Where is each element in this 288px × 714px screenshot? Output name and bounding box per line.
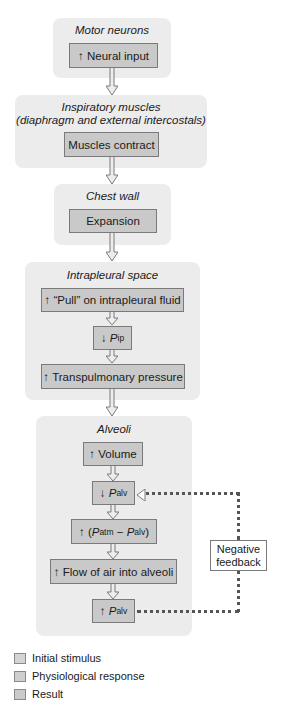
box-pull-intrapleural-fluid: ↑ “Pull” on intrapleural fluid xyxy=(41,288,184,312)
up-arrow-icon: ↑ xyxy=(43,371,49,383)
box-label: Flow of air into alveoli xyxy=(63,566,174,578)
box-expansion: Expansion xyxy=(69,209,157,233)
flow-arrow-icon xyxy=(106,68,118,96)
box-transpulmonary-pressure: ↑ Transpulmonary pressure xyxy=(41,364,185,389)
up-arrow-icon: ↑ xyxy=(89,448,95,460)
var-p: P xyxy=(92,526,100,538)
panel-title-intrapleural: Intrapleural space xyxy=(25,269,200,282)
box-label: “Pull” on intrapleural fluid xyxy=(53,294,180,306)
var-p: P xyxy=(110,332,118,344)
feedback-line-bottom xyxy=(137,610,239,613)
flow-arrow-icon xyxy=(106,350,118,364)
var-p: P xyxy=(109,605,117,617)
box-palv-increase: ↑ Palv xyxy=(92,599,135,623)
flow-arrow-icon xyxy=(107,544,119,560)
box-label: Expansion xyxy=(86,215,140,227)
up-arrow-icon: ↑ xyxy=(54,566,60,578)
paren-close: ) xyxy=(145,526,149,538)
box-palv-decrease: ↓ Palv xyxy=(92,481,135,505)
subscript-alv: alv xyxy=(134,527,145,537)
panel-title-inspiratory: Inspiratory muscles xyxy=(15,101,207,114)
panel-title-chest-wall: Chest wall xyxy=(54,190,171,203)
legend-label: Physiological response xyxy=(32,670,145,682)
down-arrow-icon: ↓ xyxy=(100,487,106,499)
up-arrow-icon: ↑ xyxy=(79,526,85,538)
box-label: Muscles contract xyxy=(68,139,154,151)
box-label: Volume xyxy=(98,448,136,460)
legend-label: Initial stimulus xyxy=(32,652,101,664)
legend-item-initial-stimulus: Initial stimulus xyxy=(14,652,101,664)
legend-item-physiological-response: Physiological response xyxy=(14,670,145,682)
up-arrow-icon: ↑ xyxy=(44,294,50,306)
legend-label: Result xyxy=(32,688,63,700)
legend-swatch xyxy=(14,689,26,700)
up-arrow-icon: ↑ xyxy=(100,605,106,617)
negative-feedback-label: Negativefeedback xyxy=(210,540,267,571)
var-p: P xyxy=(109,487,117,499)
legend-item-result: Result xyxy=(14,688,63,700)
down-arrow-icon: ↓ xyxy=(101,332,107,344)
feedback-line-right-lower xyxy=(237,571,240,612)
subscript-alv: alv xyxy=(116,606,127,616)
box-flow-of-air: ↑ Flow of air into alveoli xyxy=(50,559,177,584)
flow-arrow-icon xyxy=(107,505,119,520)
panel-title-alveoli: Alveoli xyxy=(36,423,192,436)
subscript-atm: atm xyxy=(99,527,113,537)
box-pip-decrease: ↓ Pip xyxy=(93,326,132,350)
box-label: Neural input xyxy=(87,50,149,62)
flow-arrow-icon xyxy=(106,312,118,326)
feedback-arrowhead-icon xyxy=(136,487,146,505)
panel-title-motor-neurons: Motor neurons xyxy=(53,24,171,37)
subscript-ip: ip xyxy=(118,333,125,343)
var-p: P xyxy=(127,526,135,538)
box-label: Transpulmonary pressure xyxy=(52,371,183,383)
feedback-line-top xyxy=(146,492,239,495)
feedback-line-right-upper xyxy=(237,492,240,540)
flow-arrow-icon xyxy=(106,389,118,417)
minus-sign: − xyxy=(114,526,127,538)
panel-subtitle-inspiratory: (diaphragm and external intercostals) xyxy=(15,114,207,127)
box-muscles-contract: Muscles contract xyxy=(64,132,159,157)
feedback-line1: Negative xyxy=(216,543,261,556)
flow-arrow-icon xyxy=(106,157,118,185)
flow-arrow-icon xyxy=(107,466,119,482)
subscript-alv: alv xyxy=(116,488,127,498)
legend-swatch xyxy=(14,653,26,664)
legend-swatch xyxy=(14,671,26,682)
flow-arrow-icon xyxy=(106,233,118,262)
up-arrow-icon: ↑ xyxy=(78,50,84,62)
flow-arrow-icon xyxy=(107,584,119,600)
box-patm-minus-palv: ↑ (Patm − Palv) xyxy=(71,519,157,544)
feedback-line2: feedback xyxy=(216,556,261,569)
box-volume: ↑ Volume xyxy=(83,442,143,466)
box-neural-input: ↑ Neural input xyxy=(69,43,158,68)
